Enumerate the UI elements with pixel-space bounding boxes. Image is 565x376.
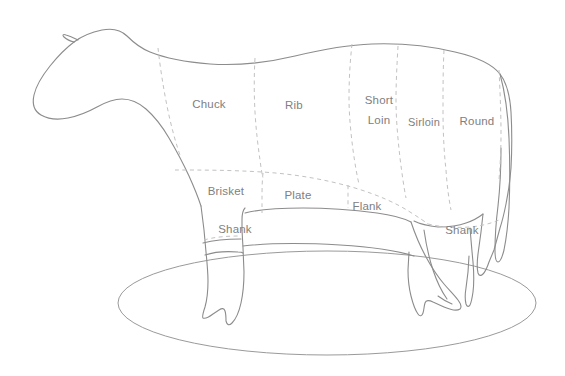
- label-chuck: Chuck: [192, 98, 226, 110]
- lower-body-line: [243, 244, 414, 256]
- divider-rib-shortloin: [349, 44, 359, 184]
- chest-lower-line: [203, 239, 241, 243]
- label-round: Round: [460, 115, 495, 127]
- label-rib: Rib: [285, 99, 303, 111]
- divider-shortloin-sirloin: [396, 46, 406, 198]
- label-shank-front: Shank: [218, 223, 252, 235]
- divider-sirloin-round: [443, 50, 451, 210]
- cow-tail: [495, 74, 510, 262]
- label-flank: Flank: [352, 200, 381, 212]
- cow-body-outline: [74, 29, 512, 275]
- cow-outline-group: [33, 29, 511, 324]
- label-short-loin-line2: Loin: [368, 114, 391, 126]
- label-short-loin-line1: Short: [365, 94, 394, 106]
- cut-labels-group: Chuck Rib Short Loin Sirloin Round Brisk…: [192, 94, 494, 236]
- rear-hoof-detail: [438, 296, 452, 304]
- cut-dividers-group: [158, 44, 501, 240]
- beef-cuts-diagram: Chuck Rib Short Loin Sirloin Round Brisk…: [0, 0, 565, 376]
- cow-head-jaw-outline: [33, 42, 201, 206]
- label-shank-rear: Shank: [445, 224, 479, 236]
- divider-brisket-plate: [262, 173, 263, 213]
- front-hoof-band: [205, 252, 243, 255]
- label-brisket: Brisket: [208, 185, 245, 197]
- cow-belly-line: [245, 208, 411, 222]
- rear-leg-inner-contour: [424, 230, 447, 299]
- divider-chuck-front: [158, 48, 181, 158]
- divider-chuck-rib: [254, 58, 263, 178]
- rear-leg-near: [408, 222, 461, 316]
- label-sirloin: Sirloin: [408, 116, 440, 128]
- cow-diagram-canvas: Chuck Rib Short Loin Sirloin Round Brisk…: [0, 0, 565, 376]
- rear-leg-far: [465, 228, 474, 306]
- label-plate: Plate: [284, 189, 311, 201]
